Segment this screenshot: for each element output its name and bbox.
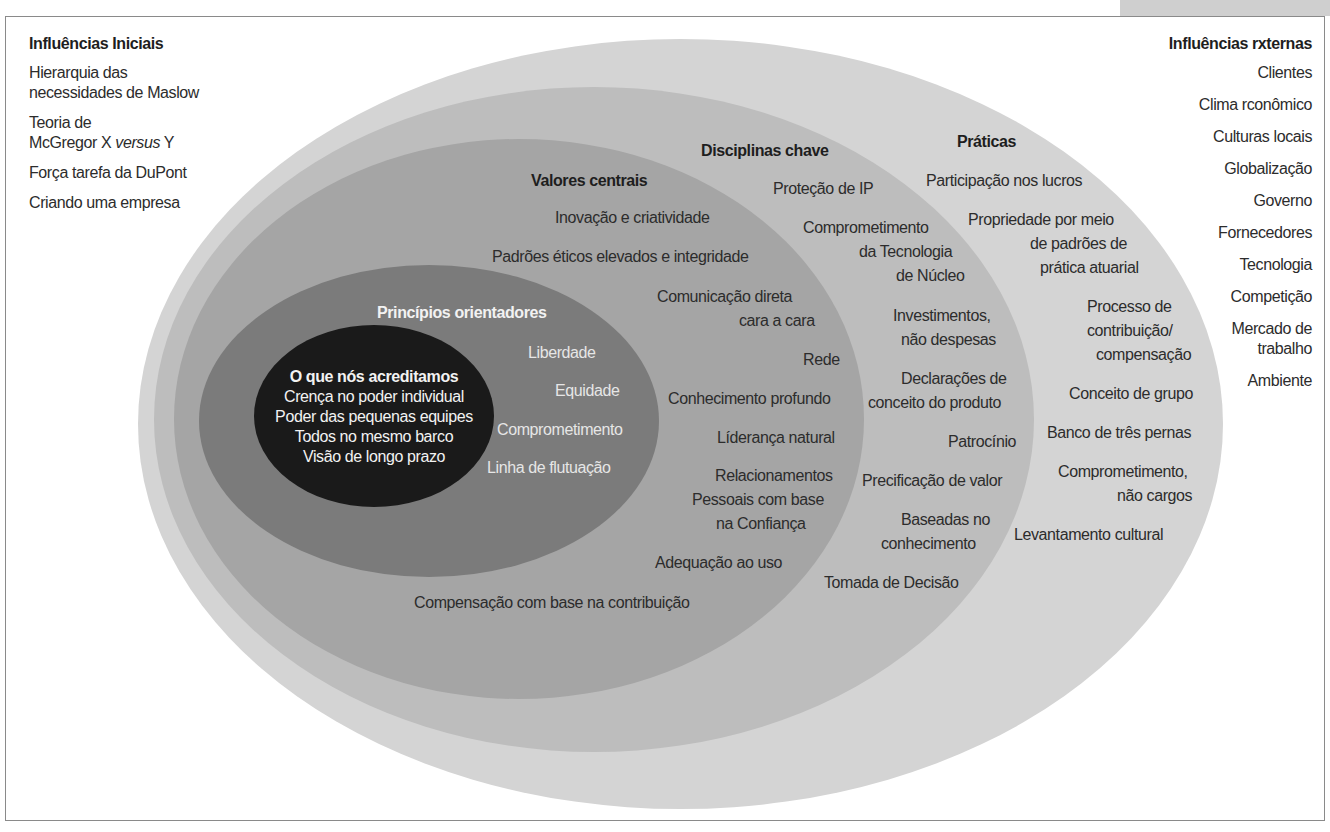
disciplina-item: Tomada de Decisão bbox=[824, 573, 959, 593]
external-influence-item: Culturas locais bbox=[1169, 127, 1312, 147]
valor-item: Inovação e criatividade bbox=[555, 208, 709, 228]
disciplina-item: Patrocínio bbox=[948, 432, 1016, 452]
disciplina-item: Baseadas no bbox=[901, 510, 990, 530]
pratica-item: contribuição/ bbox=[1087, 321, 1173, 341]
text-fragment: Y bbox=[160, 134, 174, 151]
initial-influence-line: McGregor X versus Y bbox=[29, 133, 199, 153]
initial-influence-item: Hierarquia das necessidades de Maslow bbox=[29, 63, 199, 103]
pratica-item: Levantamento cultural bbox=[1014, 525, 1163, 545]
initial-influences-column: Influências Iniciais Hierarquia das nece… bbox=[29, 35, 199, 213]
external-influence-item: Clientes bbox=[1169, 63, 1312, 83]
pratica-item: Propriedade por meio bbox=[968, 210, 1114, 230]
valor-item: Conhecimento profundo bbox=[668, 389, 830, 409]
disciplinas-title: Disciplinas chave bbox=[701, 141, 829, 161]
pratica-item: Comprometimento, bbox=[1058, 462, 1188, 482]
initial-influence-line: necessidades de Maslow bbox=[29, 83, 199, 103]
valor-item: Rede bbox=[803, 350, 840, 370]
disciplina-item: Investimentos, bbox=[893, 306, 991, 326]
valor-item: Padrões éticos elevados e integridade bbox=[492, 247, 749, 267]
core-item: Todos no mesmo barco bbox=[254, 427, 494, 447]
pratica-item: Participação nos lucros bbox=[926, 171, 1082, 191]
principio-item: Equidade bbox=[555, 381, 619, 401]
valor-item: Comunicação direta bbox=[657, 287, 792, 307]
pratica-item: compensação bbox=[1096, 345, 1191, 365]
text-fragment: McGregor X bbox=[29, 134, 115, 151]
italic-fragment: versus bbox=[115, 134, 160, 151]
pratica-item: de padrões de bbox=[1030, 234, 1127, 254]
disciplina-item: Precificação de valor bbox=[862, 471, 1002, 491]
core-title: O que nós acreditamos bbox=[254, 367, 494, 387]
principio-item: Liberdade bbox=[528, 343, 596, 363]
disciplina-item: de Núcleo bbox=[896, 266, 964, 286]
praticas-title: Práticas bbox=[957, 132, 1016, 152]
external-influence-item: Governo bbox=[1169, 191, 1312, 211]
disciplina-item: Comprometimento bbox=[803, 218, 929, 238]
disciplina-item: da Tecnologia bbox=[859, 242, 952, 262]
disciplina-item: não despesas bbox=[901, 330, 996, 350]
external-influences-title: Influências rxternas bbox=[1169, 35, 1312, 53]
pratica-item: Processo de bbox=[1087, 297, 1172, 317]
initial-influences-title: Influências Iniciais bbox=[29, 35, 199, 53]
disciplina-item: conhecimento bbox=[881, 534, 976, 554]
top-gray-band bbox=[1120, 0, 1330, 16]
principios-title: Princípios orientadores bbox=[377, 303, 547, 323]
external-influence-line: Mercado de bbox=[1169, 319, 1312, 339]
valor-item: na Confiança bbox=[716, 514, 806, 534]
external-influence-item: Tecnologia bbox=[1169, 255, 1312, 275]
pratica-item: Conceito de grupo bbox=[1069, 384, 1193, 404]
disciplina-item: Proteção de IP bbox=[773, 179, 873, 199]
initial-influence-line: Hierarquia das bbox=[29, 63, 199, 83]
external-influence-item: Globalização bbox=[1169, 159, 1312, 179]
external-influence-item: Fornecedores bbox=[1169, 223, 1312, 243]
initial-influence-item: Força tarefa da DuPont bbox=[29, 163, 199, 183]
valor-item: Líderança natural bbox=[717, 428, 835, 448]
principio-item: Linha de flutuação bbox=[487, 458, 611, 478]
external-influence-item: Competição bbox=[1169, 287, 1312, 307]
pratica-item: Banco de três pernas bbox=[1047, 423, 1191, 443]
valores-title: Valores centrais bbox=[531, 171, 647, 191]
initial-influence-line: Teoria de bbox=[29, 113, 199, 133]
valor-item: Compensação com base na contribuição bbox=[414, 593, 690, 613]
valor-item: Relacionamentos bbox=[715, 466, 833, 486]
disciplina-item: Declarações de bbox=[901, 369, 1007, 389]
initial-influence-item: Teoria de McGregor X versus Y bbox=[29, 113, 199, 153]
principio-item: Comprometimento bbox=[497, 420, 623, 440]
disciplina-item: conceito do produto bbox=[868, 393, 1001, 413]
valor-item: Adequação ao uso bbox=[655, 553, 782, 573]
core-item: Poder das pequenas equipes bbox=[254, 407, 494, 427]
diagram-frame: Influências Iniciais Hierarquia das nece… bbox=[5, 16, 1325, 821]
core-item: Crença no poder individual bbox=[254, 387, 494, 407]
core-item: Visão de longo prazo bbox=[254, 447, 494, 467]
valor-item: cara a cara bbox=[739, 311, 815, 331]
pratica-item: prática atuarial bbox=[1040, 258, 1139, 278]
pratica-item: não cargos bbox=[1117, 486, 1192, 506]
initial-influence-item: Criando uma empresa bbox=[29, 193, 199, 213]
external-influence-item: Clima rconômico bbox=[1169, 95, 1312, 115]
valor-item: Pessoais com base bbox=[692, 490, 824, 510]
